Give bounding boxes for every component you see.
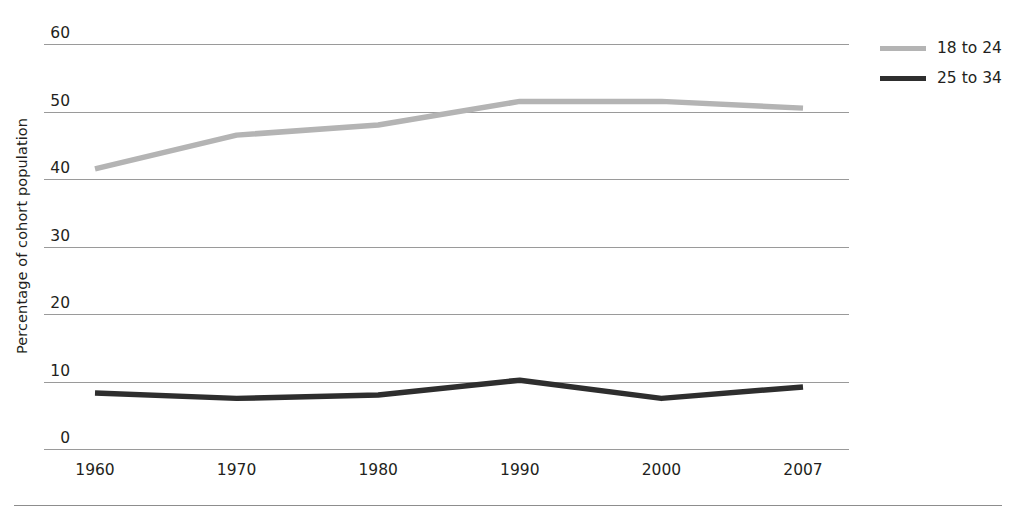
series-line-25-to-34 <box>95 380 803 398</box>
x-tick-label-1960: 1960 <box>75 461 114 479</box>
y-tick-label-60: 60 <box>36 24 70 44</box>
x-tick-label-1980: 1980 <box>358 461 397 479</box>
gridline-0 <box>44 449 849 450</box>
legend-item-18-to-24[interactable]: 18 to 24 <box>880 33 1016 63</box>
line-chart-figure: Percentage of cohort population 01020304… <box>0 0 1016 519</box>
legend-swatch-icon-25-to-34 <box>880 76 926 81</box>
x-tick-label-2007: 2007 <box>783 461 822 479</box>
series-group <box>44 44 849 449</box>
legend-label-18-to-24: 18 to 24 <box>937 39 1002 57</box>
y-axis-title: Percentage of cohort population <box>14 66 30 406</box>
legend-swatch-icon-18-to-24 <box>880 46 926 51</box>
x-axis-tick-labels: 196019701980199020002007 <box>44 461 849 485</box>
x-tick-label-1970: 1970 <box>217 461 256 479</box>
x-tick-label-1990: 1990 <box>500 461 539 479</box>
series-line-18-to-24 <box>95 101 803 169</box>
footer-divider <box>14 505 1002 506</box>
x-tick-label-2000: 2000 <box>642 461 681 479</box>
chart-legend: 18 to 24 25 to 34 <box>880 33 1016 93</box>
plot-area: 0102030405060 <box>44 44 849 449</box>
legend-item-25-to-34[interactable]: 25 to 34 <box>880 63 1016 93</box>
legend-label-25-to-34: 25 to 34 <box>937 69 1002 87</box>
